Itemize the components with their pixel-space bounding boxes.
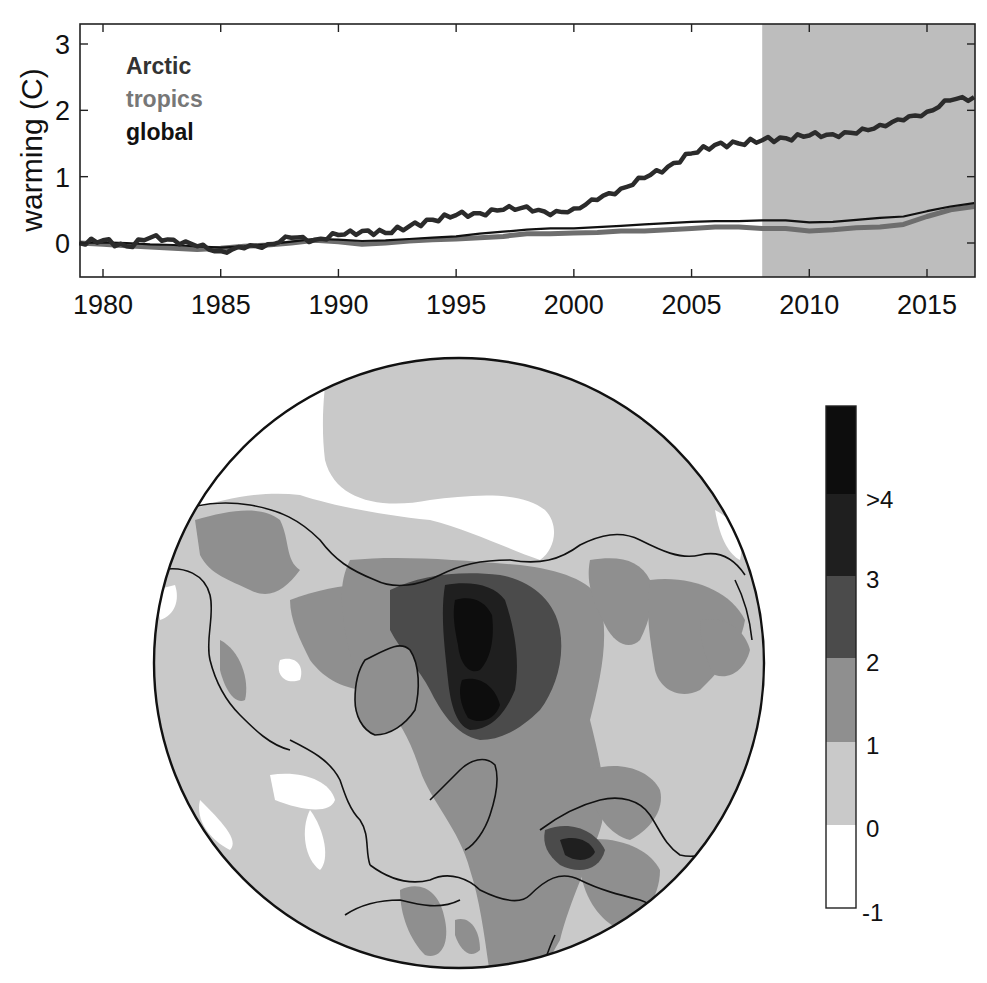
figure: 19801985199019952000200520102015 0123 wa… [0,0,987,983]
legend-arctic: Arctic [126,53,191,79]
x-tick-label: 1990 [308,290,368,320]
x-tick-label: 2005 [662,290,722,320]
legend-global: global [126,119,194,145]
time-series-panel: 19801985199019952000200520102015 0123 wa… [15,24,975,320]
y-tick-label: 0 [55,229,70,259]
colorbar-band [826,494,856,576]
colorbar-label-neg1: -1 [862,899,883,926]
colorbar-label-0: 0 [866,815,879,842]
colorbar-label-3: 3 [866,566,879,593]
y-tick-label: 1 [55,163,70,193]
legend-tropics: tropics [126,86,203,112]
colorbar: >4 3 2 1 0 -1 [826,406,893,926]
y-axis-label: warming (C) [15,68,48,232]
colorbar-band [826,742,856,825]
x-tick-label: 2000 [544,290,604,320]
legend: Arctic tropics global [126,53,203,145]
map-field [150,350,770,980]
colorbar-band [826,658,856,742]
colorbar-bands [826,406,856,908]
colorbar-band [826,406,856,494]
colorbar-label-gt4: >4 [866,486,893,513]
x-tick-label: 1985 [191,290,251,320]
x-tick-label: 1980 [73,290,133,320]
x-tick-label: 2010 [779,290,839,320]
x-tick-label: 1995 [426,290,486,320]
colorbar-band [826,825,856,908]
colorbar-band [826,576,856,658]
y-tick-label: 3 [55,30,70,60]
colorbar-label-2: 2 [866,649,879,676]
colorbar-label-1: 1 [866,732,879,759]
shaded-period [762,24,975,277]
polar-map-panel [150,350,770,980]
y-tick-label: 2 [55,96,70,126]
x-tick-label: 2015 [897,290,957,320]
